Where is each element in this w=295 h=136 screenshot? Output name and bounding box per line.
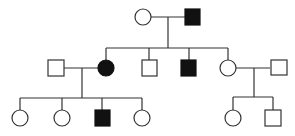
individual-II-1-male-unaffected [48, 60, 64, 76]
individual-III-4-female-unaffected [134, 110, 150, 126]
individual-II-2-female-affected [98, 60, 114, 76]
individual-II-5-female-unaffected [220, 60, 236, 76]
individual-III-3-male-affected [95, 110, 110, 126]
individual-II-6-male-unaffected [271, 60, 287, 75]
sibship-gen2 [106, 48, 228, 60]
generation-3-right [225, 97, 281, 126]
individual-III-2-female-unaffected [54, 110, 70, 126]
pedigree-chart [0, 0, 295, 136]
generation-3-left [12, 98, 150, 126]
generation-1 [135, 9, 200, 48]
individual-II-3-male-unaffected [142, 60, 157, 76]
individual-III-5-female-unaffected [225, 110, 241, 126]
generation-2 [48, 60, 287, 98]
individual-III-6-male-unaffected [265, 110, 281, 126]
individual-I-1-female-unaffected [135, 9, 151, 25]
individual-I-2-male-affected [185, 9, 200, 25]
individual-III-1-female-unaffected [12, 110, 28, 126]
individual-II-4-male-affected [181, 60, 196, 76]
